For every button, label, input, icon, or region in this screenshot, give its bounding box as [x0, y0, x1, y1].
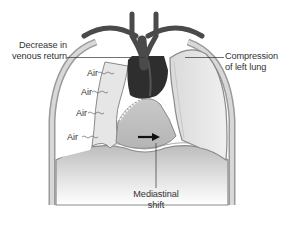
mediastinal-shift-label-line1: Mediastinal [128, 189, 184, 200]
mediastinal-shift-label-line2: shift [128, 200, 184, 211]
air-label: Air [67, 132, 78, 142]
venous-return-label-line2: venous return [0, 51, 67, 62]
air-label: Air [76, 108, 87, 118]
air-label: Air [87, 68, 98, 78]
venous-return-label-line1: Decrease in [18, 40, 67, 51]
air-label: Air [81, 87, 92, 97]
mediastinum [116, 99, 176, 149]
lung-compression-label-line2: of left lung [225, 62, 266, 73]
lung-compression-label-line1: Compression [225, 51, 278, 62]
